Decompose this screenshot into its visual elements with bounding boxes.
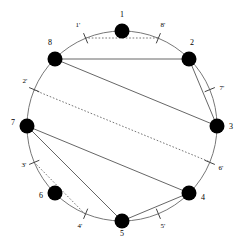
node-dot-5[interactable]: [115, 214, 130, 229]
tick-mark-7p: [205, 88, 215, 92]
tick-mark-5p: [156, 209, 160, 219]
node-label-6: 6: [39, 191, 43, 200]
figure-canvas: 123456781'2'3'4'5'6'7'8': [0, 0, 245, 248]
tick-mark-2p: [29, 88, 39, 92]
node-dot-4[interactable]: [182, 186, 197, 201]
tick-label-4p: 4': [78, 222, 83, 230]
node-dot-6[interactable]: [48, 186, 63, 201]
node-dot-3[interactable]: [210, 119, 225, 134]
tick-mark-1p: [84, 33, 88, 43]
node-dot-8[interactable]: [48, 52, 63, 67]
node-dot-2[interactable]: [182, 52, 197, 67]
tick-mark-3p: [29, 160, 39, 164]
node-label-7: 7: [11, 118, 15, 127]
tick-label-3p: 3': [22, 161, 27, 169]
node-label-5: 5: [120, 229, 124, 238]
node-label-1: 1: [120, 10, 124, 19]
tick-label-5p: 5': [161, 222, 166, 230]
node-dot-1[interactable]: [115, 24, 130, 39]
tick-label-1p: 1': [76, 21, 81, 29]
chord-7-5: [27, 126, 122, 221]
node-label-3: 3: [229, 122, 233, 131]
tick-label-7p: 7': [220, 84, 225, 92]
tick-label-2p: 2': [23, 77, 28, 85]
circle-chord-diagram: 123456781'2'3'4'5'6'7'8': [0, 0, 245, 248]
chord-4-5: [122, 193, 189, 221]
node-label-8: 8: [48, 38, 52, 47]
tick-mark-6p: [205, 160, 215, 164]
chord-8-3: [55, 59, 217, 126]
tick-label-8p: 8': [161, 21, 166, 29]
node-dot-7[interactable]: [20, 119, 35, 134]
dchord-2p-6p: [34, 90, 210, 162]
tick-label-6p: 6': [219, 164, 224, 172]
chord-7-4: [27, 126, 189, 193]
node-label-4: 4: [201, 193, 205, 202]
node-label-2: 2: [190, 38, 194, 47]
